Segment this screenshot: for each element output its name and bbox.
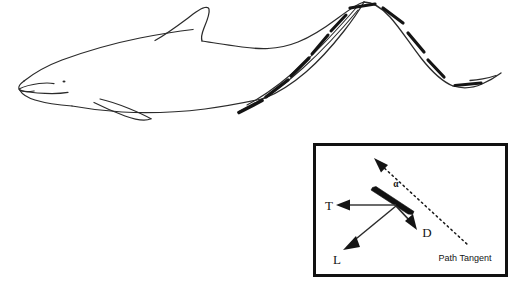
dorsal-fin [155,7,209,41]
drag-label: D [422,225,431,240]
dolphin-rostrum-upper [19,83,54,89]
dolphin-back-outline [24,30,193,82]
lift-label: L [333,252,341,267]
thrust-label: T [325,198,333,213]
dolphin-fluke-hydrodynamics-diagram: T L D α Path Tangent [0,0,520,291]
fluke-tangent-segment [291,58,309,76]
dolphin-illustration-layer: T L D α Path Tangent [0,0,520,291]
path-tangent-label: Path Tangent [439,253,492,263]
dolphin-back-rear-outline [202,41,268,49]
fluke-trailing-tip [470,76,496,81]
dolphin-eye-dot [63,80,66,82]
fluke-tangent-segment [408,33,424,52]
angle-of-attack-label: α [393,179,399,189]
fluke-tangent-segment [455,83,481,86]
pectoral-flipper-lower-edge [94,103,151,121]
fluke-tangent-segment [350,4,375,8]
force-vector-inset: T L D α Path Tangent [315,145,507,276]
fluke-tangent-segments [239,4,481,113]
